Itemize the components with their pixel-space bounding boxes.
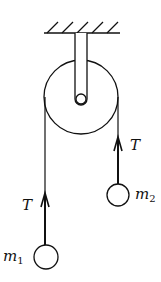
right-tension-arrow bbox=[114, 137, 122, 184]
pulley-axle bbox=[76, 94, 86, 104]
right-tension-label: T bbox=[130, 136, 141, 154]
left-tension-arrow bbox=[41, 193, 49, 245]
ceiling-hatch bbox=[62, 22, 73, 33]
ceiling-hatch bbox=[92, 22, 103, 33]
mass-m1 bbox=[34, 245, 58, 269]
mass-m2 bbox=[107, 184, 129, 206]
left-tension-label: T bbox=[22, 196, 33, 214]
mass-m1-label: m1 bbox=[3, 247, 24, 266]
ceiling-support bbox=[44, 22, 120, 33]
mass-m2-label: m2 bbox=[135, 185, 156, 204]
ceiling-hatch bbox=[47, 22, 58, 33]
ceiling-hatch bbox=[77, 22, 88, 33]
ceiling-hatch bbox=[107, 22, 118, 33]
atwood-machine-diagram: T T m1 m2 bbox=[0, 0, 161, 282]
